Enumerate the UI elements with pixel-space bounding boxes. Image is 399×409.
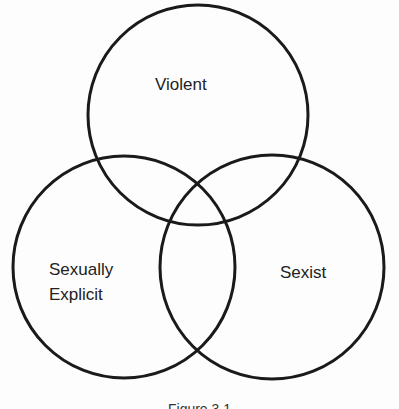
- venn-diagram: Violent Sexually Explicit Sexist Figure …: [0, 0, 399, 409]
- venn-circles: [0, 0, 399, 409]
- circle-sexist: [160, 155, 384, 379]
- label-violent: Violent: [155, 74, 207, 96]
- label-sexually-explicit-line1: Sexually: [49, 259, 113, 281]
- figure-caption: Figure 3.1: [0, 401, 399, 409]
- label-sexist: Sexist: [280, 262, 326, 284]
- circle-sexually-explicit: [13, 156, 235, 378]
- label-sexually-explicit-line2: Explicit: [49, 284, 103, 306]
- circle-violent: [88, 5, 308, 225]
